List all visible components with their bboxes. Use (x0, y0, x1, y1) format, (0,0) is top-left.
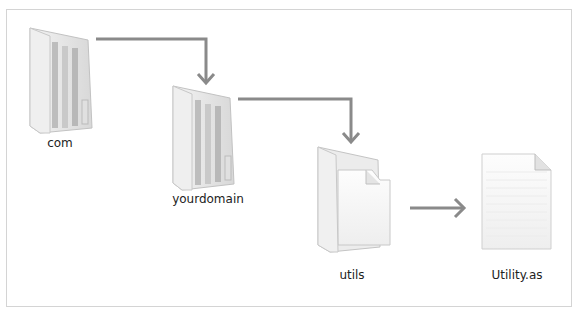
node-label-com: com (47, 136, 73, 150)
node-label-utils: utils (339, 268, 364, 282)
folder-icon-yourdomain[interactable] (173, 86, 234, 190)
folder-icon-com[interactable] (30, 28, 92, 133)
arrow-utils-to-utility (410, 199, 464, 217)
node-label-utility: Utility.as (491, 268, 542, 282)
node-label-yourdomain: yourdomain (172, 192, 244, 206)
folder-icon-utils[interactable] (318, 147, 390, 252)
file-icon-utility[interactable] (482, 154, 551, 249)
arrow-yourdomain-to-utils (238, 99, 359, 142)
arrow-com-to-yourdomain (96, 39, 214, 83)
